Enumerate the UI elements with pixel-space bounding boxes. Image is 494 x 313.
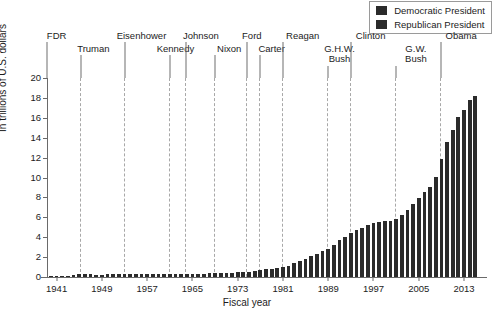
- president-leader-line: [169, 55, 170, 78]
- bar: [134, 274, 138, 277]
- bar: [174, 274, 178, 277]
- bar: [326, 249, 330, 277]
- bar: [468, 100, 472, 277]
- president-label-line: Obama: [446, 31, 477, 41]
- president-label-ford: Ford: [242, 31, 262, 41]
- bar: [417, 198, 421, 277]
- y-axis-tick: [43, 237, 47, 238]
- bar: [332, 245, 336, 277]
- bar: [270, 269, 274, 277]
- president-label-fdr: FDR: [47, 31, 67, 41]
- president-divider-line: [80, 78, 82, 277]
- y-axis-tick-label: 14: [30, 133, 41, 143]
- president-label-kennedy: Kennedy: [157, 44, 195, 54]
- president-label-nixon: Nixon: [217, 44, 241, 54]
- bar: [128, 274, 132, 277]
- x-axis-tick-label: 1973: [227, 284, 248, 294]
- y-axis-label: In trillions of U.S. dollars: [0, 0, 8, 178]
- bar: [202, 274, 206, 277]
- bar: [179, 274, 183, 277]
- bar: [123, 274, 127, 277]
- bar: [185, 274, 189, 277]
- president-label-line: Johnson: [183, 31, 219, 41]
- x-axis-tick-label: 1981: [272, 284, 293, 294]
- bar: [445, 142, 449, 277]
- president-label-line: Carter: [258, 44, 284, 54]
- president-leader-line: [396, 66, 397, 78]
- x-axis-tick: [373, 277, 374, 281]
- bar: [434, 177, 438, 277]
- bar: [49, 276, 53, 277]
- bar: [440, 159, 444, 278]
- y-axis-tick: [43, 138, 47, 139]
- x-axis-tick: [328, 277, 329, 281]
- president-leader-line: [260, 55, 261, 78]
- legend-item-republican-president: Republican President: [375, 19, 485, 30]
- y-axis-tick: [43, 78, 47, 79]
- bar: [423, 192, 427, 277]
- president-label-obama: Obama: [446, 31, 477, 41]
- bar: [315, 254, 319, 277]
- bar: [117, 274, 121, 277]
- president-label-clinton: Clinton: [356, 31, 386, 41]
- president-leader-line: [47, 42, 48, 78]
- bar: [162, 274, 166, 277]
- bar: [157, 274, 161, 277]
- y-axis-tick-label: 10: [30, 173, 41, 183]
- y-axis-tick: [43, 277, 47, 278]
- x-axis-tick: [101, 277, 102, 281]
- bar: [366, 225, 370, 277]
- bar: [247, 272, 251, 277]
- bar: [168, 274, 172, 277]
- y-axis-tick-label: 2: [36, 252, 41, 262]
- bar: [298, 261, 302, 277]
- president-leader-line: [282, 42, 283, 78]
- president-label-line: Clinton: [356, 31, 386, 41]
- bar: [213, 273, 217, 277]
- president-label-johnson: Johnson: [183, 31, 219, 41]
- bar: [389, 221, 393, 277]
- president-label-g-w-bush: G.W.Bush: [405, 44, 427, 64]
- bar: [383, 221, 387, 277]
- chart-root: Democratic President Republican Presiden…: [0, 0, 494, 313]
- bar: [304, 259, 308, 277]
- legend-swatch: [375, 5, 388, 16]
- bar: [473, 96, 477, 277]
- bar: [462, 110, 466, 277]
- x-axis-tick-label: 1965: [182, 284, 203, 294]
- bar: [230, 273, 234, 277]
- y-axis-tick-label: 6: [36, 213, 41, 223]
- president-label-line: Bush: [405, 54, 427, 64]
- bar: [140, 274, 144, 277]
- president-leader-line: [185, 42, 186, 78]
- bar: [66, 276, 70, 277]
- bar: [241, 272, 245, 277]
- president-label-line: Truman: [77, 44, 109, 54]
- president-leader-line: [441, 42, 442, 78]
- president-leader-line: [124, 42, 125, 78]
- x-axis-tick: [147, 277, 148, 281]
- bar: [151, 274, 155, 277]
- y-axis-tick: [43, 118, 47, 119]
- bar: [360, 228, 364, 277]
- bar: [355, 230, 359, 277]
- bar: [309, 256, 313, 277]
- y-axis-tick-label: 16: [30, 113, 41, 123]
- president-divider-line: [185, 78, 187, 277]
- y-axis-tick: [43, 158, 47, 159]
- bar: [338, 240, 342, 277]
- x-axis-tick-label: 1997: [363, 284, 384, 294]
- x-axis-tick-label: 1941: [46, 284, 67, 294]
- x-axis-tick: [464, 277, 465, 281]
- bar: [343, 237, 347, 277]
- bar: [77, 274, 81, 277]
- bar: [400, 215, 404, 277]
- y-axis-tick-label: 0: [36, 272, 41, 282]
- president-divider-line: [327, 78, 329, 277]
- plot-area: 02468101214161820: [47, 78, 481, 277]
- bar: [72, 275, 76, 277]
- y-axis-tick: [43, 217, 47, 218]
- bar: [89, 274, 93, 277]
- bar: [208, 273, 212, 277]
- bar: [264, 269, 268, 277]
